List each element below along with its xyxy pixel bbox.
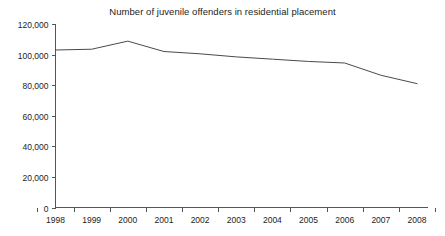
x-tick-label: 2002 bbox=[191, 215, 210, 225]
chart-container: Number of juvenile offenders in resident… bbox=[0, 0, 445, 236]
x-tick-label: 2008 bbox=[408, 215, 427, 225]
y-tick-label: 0 bbox=[44, 204, 49, 214]
y-tick-label: 100,000 bbox=[18, 51, 49, 61]
y-tick-label: 20,000 bbox=[23, 173, 49, 183]
x-tick-label: 2003 bbox=[227, 215, 246, 225]
y-tick-label: 60,000 bbox=[23, 112, 49, 122]
x-tick-label: 2004 bbox=[263, 215, 282, 225]
x-tick-label: 2005 bbox=[299, 215, 318, 225]
x-tick-label: 1998 bbox=[46, 215, 65, 225]
x-tick-label: 2006 bbox=[335, 215, 354, 225]
x-tick-label: 1999 bbox=[82, 215, 101, 225]
x-axis: 1998199920002001200220032004200520062007… bbox=[38, 208, 436, 225]
x-axis-tick-labels: 1998199920002001200220032004200520062007… bbox=[46, 215, 427, 225]
y-tick-label: 80,000 bbox=[23, 81, 49, 91]
y-tick-label: 120,000 bbox=[18, 20, 49, 30]
y-axis-tick-labels: 020,00040,00060,00080,000100,000120,000 bbox=[18, 20, 49, 214]
x-axis-ticks bbox=[38, 208, 436, 212]
x-tick-label: 2001 bbox=[154, 215, 173, 225]
x-tick-label: 2000 bbox=[118, 215, 137, 225]
y-tick-label: 40,000 bbox=[23, 142, 49, 152]
y-axis: 020,00040,00060,00080,000100,000120,000 bbox=[18, 20, 56, 214]
line-chart-plot: 020,00040,00060,00080,000100,000120,000 … bbox=[0, 0, 445, 236]
data-series-line bbox=[56, 41, 418, 84]
y-axis-ticks bbox=[52, 25, 56, 209]
x-tick-label: 2007 bbox=[371, 215, 390, 225]
